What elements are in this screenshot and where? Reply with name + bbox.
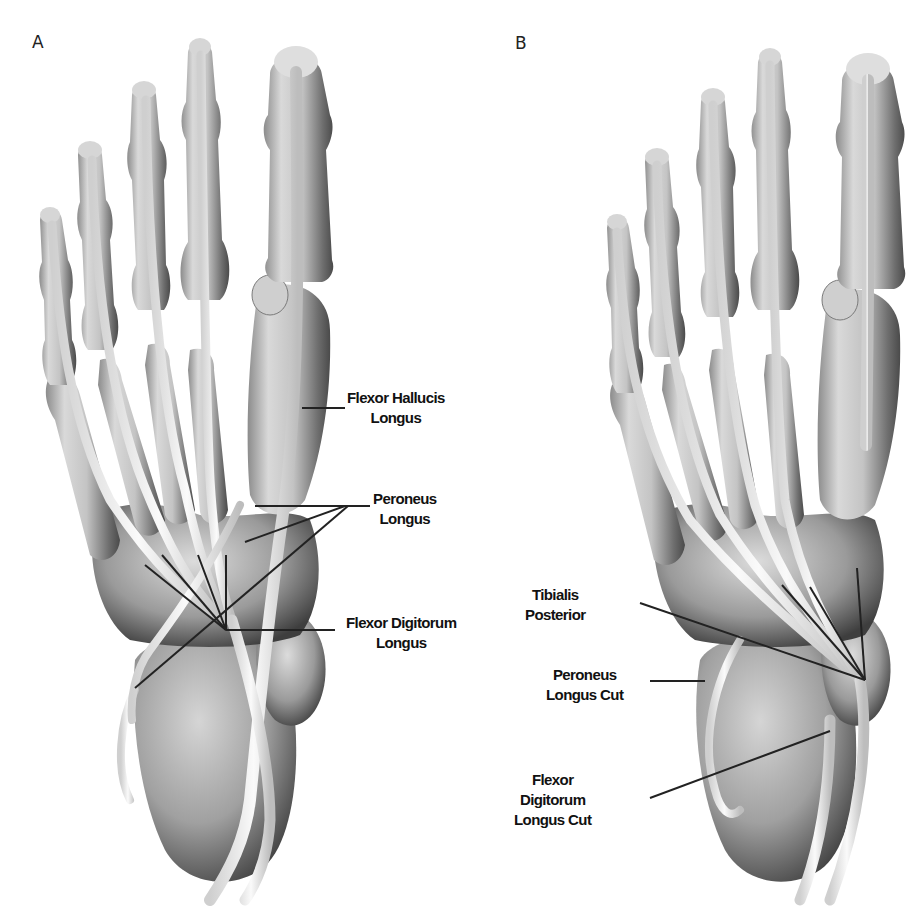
label-peroneus-longus: Peroneus Longus xyxy=(373,489,437,529)
label-peroneus-longus-cut: Peroneus Longus Cut xyxy=(546,665,623,705)
label-flexor-hallucis-longus: Flexor Hallucis Longus xyxy=(347,388,445,428)
metatarsal-1-b xyxy=(818,289,901,519)
panel-a-foot xyxy=(39,38,370,900)
panel-label-b: B xyxy=(515,33,527,53)
panel-b-foot xyxy=(606,48,905,900)
label-flexor-digitorum-longus: Flexor Digitorum Longus xyxy=(346,613,456,653)
panel-label-a: A xyxy=(32,32,44,52)
label-tibialis-posterior: Tibialis Posterior xyxy=(525,585,585,625)
illustration-canvas xyxy=(0,0,924,920)
label-flexor-digitorum-longus-cut: Flexor Digitorum Longus Cut xyxy=(514,770,591,830)
foot-anatomy-figure: A B Flexor Hallucis Longus Peroneus Long… xyxy=(0,0,924,920)
